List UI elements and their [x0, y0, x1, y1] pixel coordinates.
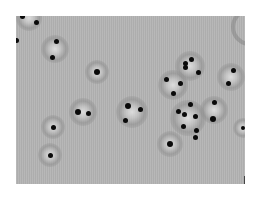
particle [50, 55, 55, 60]
corner-arc-artifact [231, 16, 245, 46]
particle [226, 81, 231, 86]
particle [75, 109, 81, 115]
particle [34, 20, 39, 25]
particle [167, 141, 173, 147]
particle [182, 112, 187, 117]
particle [123, 118, 128, 123]
particle [178, 81, 183, 86]
particle [241, 126, 245, 130]
particle [176, 109, 181, 114]
micrograph-panel [16, 16, 245, 184]
particle [231, 68, 236, 73]
particle-halo [158, 70, 188, 100]
particle [51, 125, 56, 130]
edge-tick-mark [244, 176, 245, 184]
particle [164, 77, 169, 82]
particle [86, 111, 91, 116]
particle-halo [217, 63, 245, 91]
particle [183, 65, 188, 70]
particle-halo [116, 96, 148, 128]
particle [125, 103, 131, 109]
particle [212, 100, 217, 105]
particle [193, 114, 198, 119]
particle [54, 39, 59, 44]
particle [20, 16, 25, 19]
particle [210, 116, 216, 122]
particle [16, 38, 19, 43]
particle [194, 128, 199, 133]
particle [138, 107, 143, 112]
particle [181, 124, 186, 129]
particle [171, 91, 176, 96]
particle [188, 102, 193, 107]
image-frame [0, 0, 261, 198]
particle [189, 57, 194, 62]
particle [48, 153, 53, 158]
particle [193, 135, 198, 140]
particle [94, 69, 100, 75]
particle-halo [69, 98, 97, 126]
particle [196, 70, 201, 75]
